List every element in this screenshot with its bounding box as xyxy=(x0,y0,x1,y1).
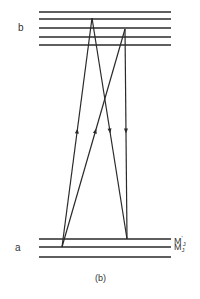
transition-line xyxy=(92,18,127,239)
arrow-down-icon xyxy=(124,128,128,133)
figure-caption: (b) xyxy=(95,273,106,283)
arrow-down-icon xyxy=(108,128,112,133)
transition-arrows xyxy=(62,18,128,247)
level-label-m-j: MJ xyxy=(174,242,185,255)
energy-level-diagram xyxy=(0,0,200,299)
energy-levels xyxy=(39,12,171,257)
transition-line xyxy=(62,29,125,247)
transition-line xyxy=(125,29,127,239)
arrow-up-icon xyxy=(93,129,97,134)
upper-state-label: b xyxy=(18,23,24,33)
lower-state-label: a xyxy=(15,243,21,253)
level-label-main: M xyxy=(174,242,182,252)
level-label-sub: J xyxy=(182,247,185,253)
